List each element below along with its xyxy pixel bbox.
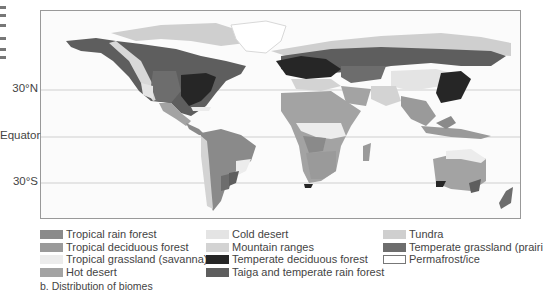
- swatch-hot-desert: [40, 268, 63, 277]
- swatch-taiga: [206, 268, 229, 277]
- swatch-tropical-rain-forest: [40, 230, 63, 239]
- swatch-permafrost-ice: [383, 255, 406, 264]
- world-biome-map: [40, 10, 521, 219]
- biome-map-graphic: [41, 11, 520, 218]
- north-america: [66, 23, 246, 136]
- latitude-label-30s: 30°S: [0, 175, 38, 187]
- latitude-label-equator: Equator: [0, 129, 38, 141]
- greenland: [231, 21, 286, 53]
- australia: [433, 149, 513, 209]
- swatch-mountain-ranges: [206, 243, 229, 252]
- swatch-tundra: [383, 230, 406, 239]
- latitude-label-30n: 30°N: [0, 82, 38, 94]
- swatch-cold-desert: [206, 230, 229, 239]
- swatch-tropical-deciduous-forest: [40, 243, 63, 252]
- africa: [281, 91, 371, 188]
- figure-caption: b. Distribution of biomes: [40, 280, 153, 292]
- swatch-temperate-deciduous-forest: [206, 255, 229, 264]
- swatch-temperate-grassland: [383, 243, 406, 252]
- cropped-text-fragment: [0, 0, 8, 70]
- swatch-tropical-grassland: [40, 255, 63, 264]
- south-america: [201, 129, 256, 211]
